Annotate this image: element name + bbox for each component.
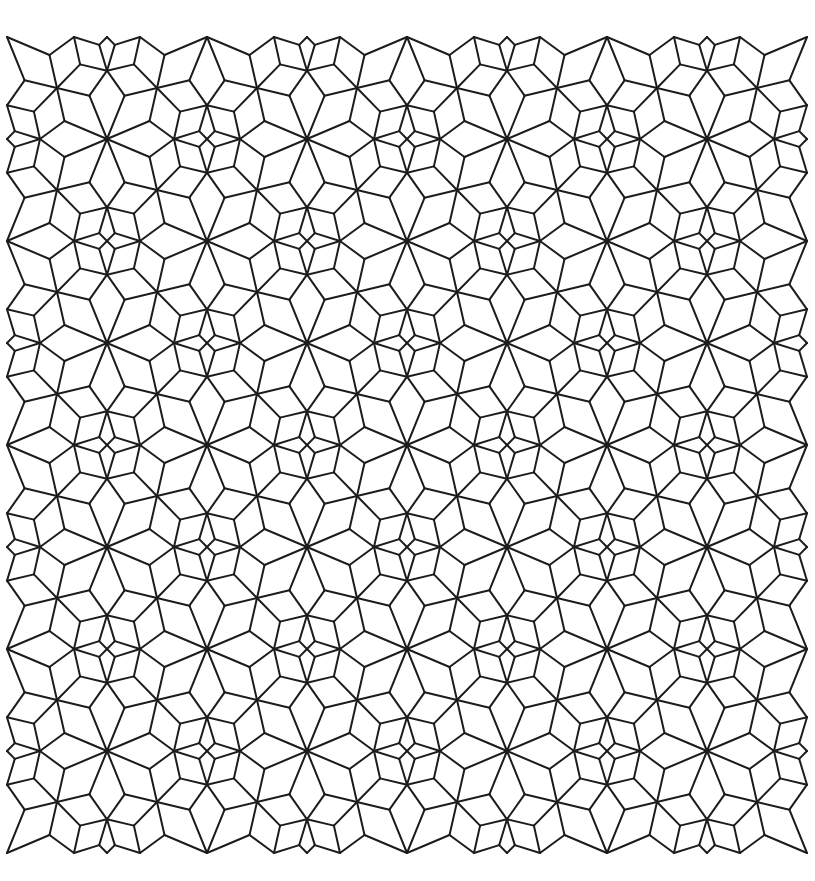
tiling-canvas [0,0,815,881]
tiling-lines [7,37,807,853]
